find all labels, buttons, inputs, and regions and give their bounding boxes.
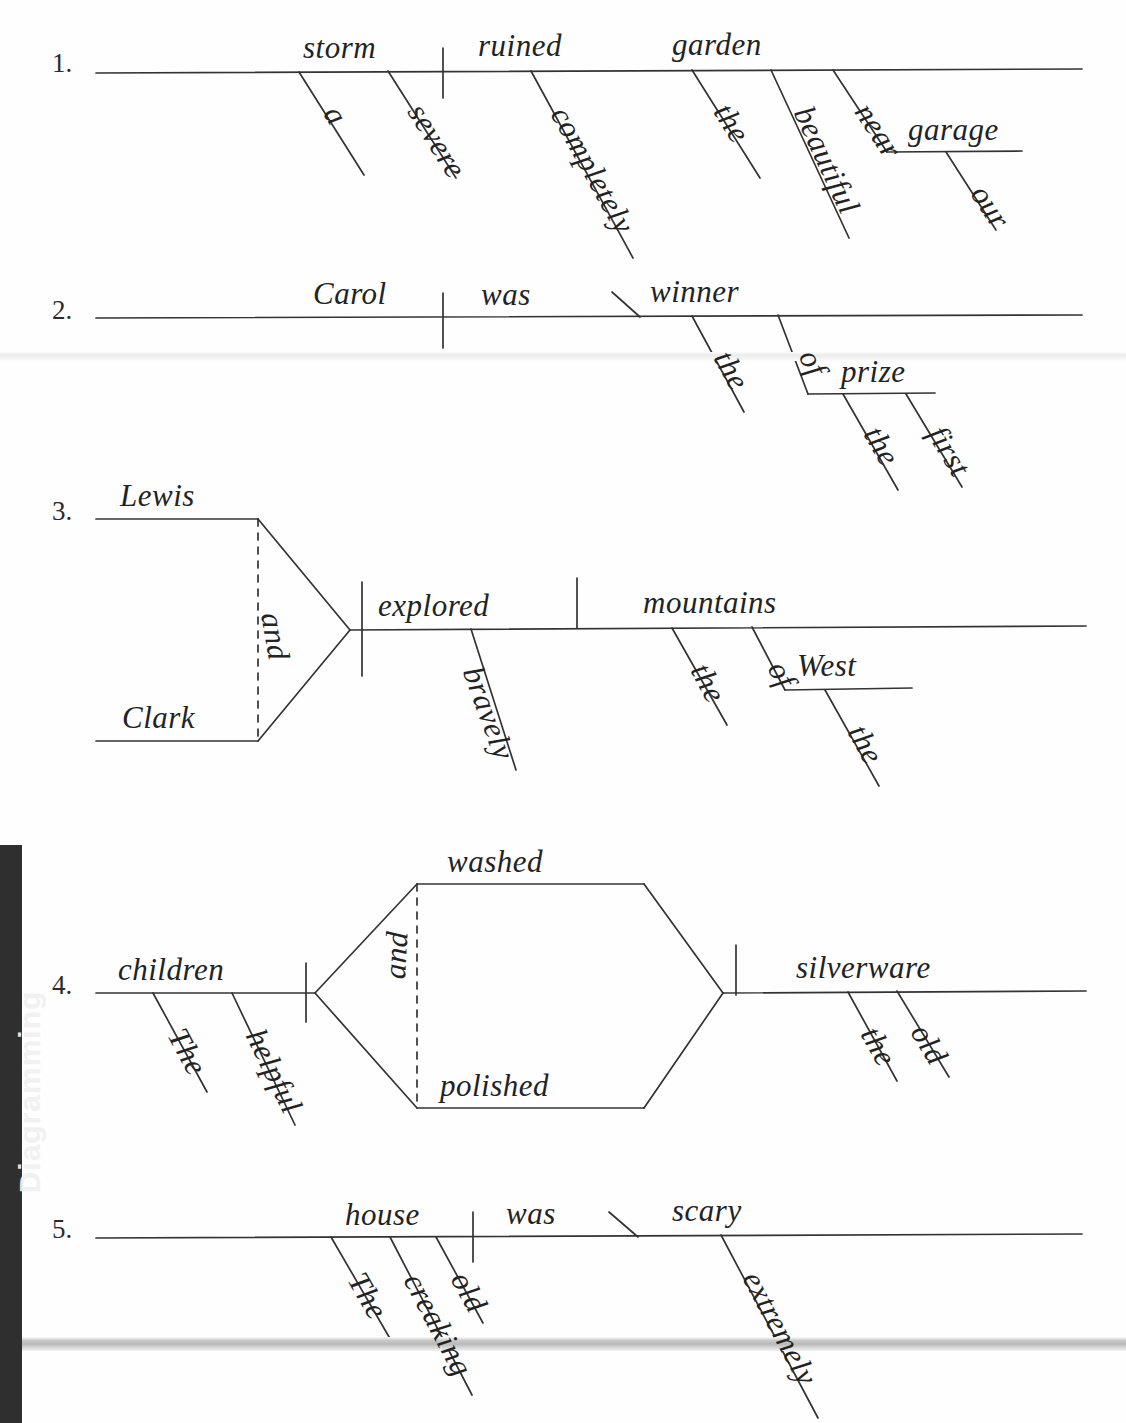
spine-label: Diagramming <box>13 942 47 1242</box>
word-predicate-adjective-5: scary <box>672 1193 742 1229</box>
item-number-2: 2. <box>52 295 72 326</box>
word-verb-3: explored <box>378 588 489 624</box>
word-verb-2: was <box>481 277 531 313</box>
word-subject-lewis-3: Lewis <box>120 478 195 514</box>
word-subject-2: Carol <box>313 276 387 312</box>
item-number-4: 4. <box>52 970 72 1001</box>
word-prep-object-west-3: West <box>797 648 856 684</box>
worksheet-page: Diagramming 1. 2. 3. 4. 5. storm a sever… <box>0 0 1126 1423</box>
word-subject-clark-3: Clark <box>122 700 195 736</box>
book-spine-bar: Diagramming <box>0 845 22 1423</box>
word-conjunction-and-4: and <box>377 930 415 980</box>
word-verb-washed-4: washed <box>447 844 543 880</box>
word-prep-object-garage-1: garage <box>908 112 999 148</box>
word-object-3: mountains <box>643 585 777 621</box>
word-subject-4: children <box>118 952 224 988</box>
word-subject-1: storm <box>303 30 376 66</box>
word-verb-5: was <box>506 1196 556 1232</box>
item-number-3: 3. <box>52 496 72 527</box>
word-verb-1: ruined <box>478 28 562 64</box>
item-number-5: 5. <box>52 1214 72 1245</box>
word-verb-polished-4: polished <box>440 1068 549 1104</box>
word-object-1: garden <box>672 27 762 63</box>
word-predicate-nominative-2: winner <box>650 274 739 310</box>
item-number-1: 1. <box>52 48 72 79</box>
word-prep-object-prize-2: prize <box>841 354 906 390</box>
word-object-4: silverware <box>796 950 931 986</box>
word-subject-5: house <box>345 1197 420 1233</box>
